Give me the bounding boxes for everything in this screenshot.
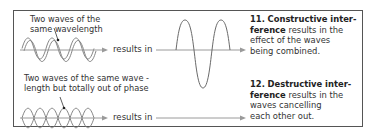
caption-text: effect of the waves [250,35,370,46]
caption-title-cont: ference [250,25,286,35]
constructive-results-in: results in [113,44,152,54]
label-line: length but totally out of phase [24,83,149,93]
constructive-caption: 11. Constructive inter- ference results … [250,14,370,56]
constructive-input-label: Two waves of the same wavelength [30,14,103,34]
caption-text: waves cancelling [250,100,370,111]
caption-title: Destructive inter- [268,79,352,89]
destructive-input-label: Two waves of the same wave - length but … [24,73,149,93]
caption-text: each other out. [250,111,370,122]
label-line: same wavelength [30,24,103,34]
label-line: Two waves of the [30,14,103,24]
caption-text: results in the [286,90,343,100]
caption-number: 12. [250,79,265,89]
label-line: Two waves of the same wave - [24,73,149,83]
caption-title: Constructive inter- [268,14,357,24]
caption-text: being combined. [250,46,370,57]
combined-wave-icon [176,20,230,88]
caption-title-cont: ference [250,90,286,100]
destructive-caption: 12. Destructive inter- ference results i… [250,79,370,121]
caption-number: 11. [250,14,265,24]
destructive-results-in: results in [113,112,152,122]
caption-text: results in the [286,25,343,35]
